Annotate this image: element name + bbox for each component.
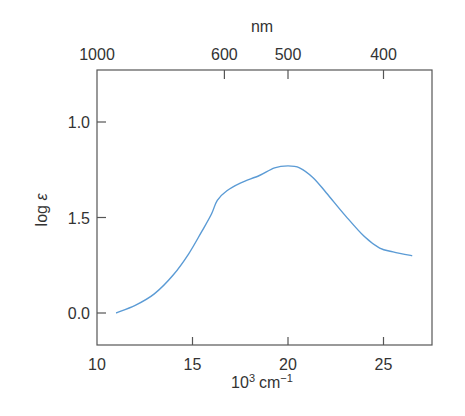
y-tick-label: 1.0 xyxy=(68,114,90,131)
top-axis-label: nm xyxy=(251,18,273,35)
x-tick-label: 20 xyxy=(279,356,297,373)
x-axis-ticks: 10152025 xyxy=(88,337,392,373)
x-axis-label: 103cm−1 xyxy=(231,372,293,391)
y-tick-label: 1.5 xyxy=(68,210,90,227)
x-tick-label: 10 xyxy=(88,356,106,373)
y-axis-ticks: 1.01.50.0 xyxy=(68,114,106,322)
y-tick-label: 0.0 xyxy=(68,305,90,322)
top-tick-label: 400 xyxy=(370,46,397,63)
top-tick-label: 1000 xyxy=(79,46,115,63)
top-tick-label: 500 xyxy=(275,46,302,63)
top-tick-label: 600 xyxy=(211,46,238,63)
x-tick-label: 25 xyxy=(375,356,393,373)
top-axis-ticks: 1000600500400 xyxy=(79,46,397,79)
plot-frame xyxy=(97,70,432,345)
absorption-spectrum-chart: 10152025 1000600500400 1.01.50.0 nm 103c… xyxy=(0,0,465,416)
y-axis-label: log ε xyxy=(33,193,50,227)
absorption-curve xyxy=(116,166,412,313)
x-tick-label: 15 xyxy=(184,356,202,373)
